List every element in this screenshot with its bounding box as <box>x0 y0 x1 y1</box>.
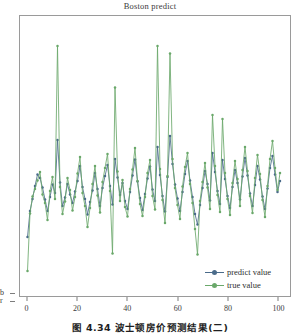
data-point <box>119 200 122 203</box>
data-point <box>239 205 242 208</box>
data-point <box>146 172 149 175</box>
data-point <box>49 190 52 193</box>
data-point <box>216 194 219 197</box>
data-point <box>196 223 199 226</box>
x-tick-mark-60 <box>177 297 178 301</box>
data-point <box>124 206 127 209</box>
data-point <box>144 196 147 199</box>
data-point <box>249 195 252 198</box>
data-point <box>91 183 94 186</box>
x-tick-label-100: 100 <box>272 304 284 313</box>
data-point <box>89 207 92 210</box>
legend-item-predict[interactable]: predict value <box>205 266 289 279</box>
data-point <box>116 170 119 173</box>
data-point <box>209 208 212 211</box>
data-point <box>111 252 114 255</box>
data-point <box>231 182 234 185</box>
x-tick-mark-0 <box>26 297 27 301</box>
data-point <box>154 208 157 211</box>
data-point <box>171 158 174 161</box>
data-point <box>131 168 134 171</box>
data-point <box>271 155 274 158</box>
data-point <box>156 146 159 149</box>
x-axis: 020406080100 <box>19 297 291 313</box>
data-point <box>71 209 74 212</box>
series-line <box>28 136 281 237</box>
data-point <box>264 216 267 219</box>
data-point <box>151 195 154 198</box>
series-line <box>28 46 281 271</box>
legend-label-true: true value <box>227 279 261 292</box>
data-point <box>26 236 29 239</box>
data-point <box>139 203 142 206</box>
data-point <box>164 222 167 225</box>
data-point <box>226 198 229 201</box>
series-true-value <box>26 45 281 273</box>
data-point <box>36 173 39 176</box>
data-point <box>184 166 187 169</box>
data-point <box>114 86 117 89</box>
y-tick-mark-b <box>10 293 15 294</box>
data-point <box>206 186 209 189</box>
chart-title: Boston predict <box>0 1 300 11</box>
data-point <box>104 167 107 170</box>
figure-caption: 图 4.34 波士顿房价预测结果(二) <box>0 320 300 334</box>
data-point <box>109 190 112 193</box>
data-point <box>244 146 247 149</box>
data-point <box>134 147 137 150</box>
x-tick-mark-80 <box>228 297 229 301</box>
data-point <box>191 202 194 205</box>
data-point <box>221 118 224 121</box>
x-tick-mark-40 <box>127 297 128 301</box>
data-point <box>31 195 34 198</box>
data-point <box>219 211 222 214</box>
data-point <box>56 139 59 142</box>
series-predict-value <box>26 135 281 239</box>
data-point <box>126 215 129 218</box>
data-point <box>41 193 44 196</box>
data-point <box>34 188 37 191</box>
data-point <box>106 153 109 156</box>
data-point <box>279 172 282 175</box>
data-point <box>211 114 214 117</box>
data-point <box>234 160 237 163</box>
x-tick-label-80: 80 <box>224 304 232 313</box>
series-canvas <box>20 16 290 296</box>
data-point <box>194 213 197 216</box>
data-point <box>251 212 254 215</box>
data-point <box>121 179 124 182</box>
data-point <box>136 180 139 183</box>
data-point <box>39 171 42 174</box>
data-point <box>276 189 279 192</box>
data-point <box>194 228 197 231</box>
chart-legend: predict value true value <box>205 266 289 292</box>
data-point <box>29 212 32 215</box>
data-point <box>26 270 29 273</box>
x-tick-label-60: 60 <box>174 304 182 313</box>
data-point <box>56 45 59 48</box>
data-point <box>189 183 192 186</box>
data-point <box>269 158 272 161</box>
data-point <box>174 187 177 190</box>
data-point <box>261 199 264 202</box>
plot-area <box>19 15 291 297</box>
data-point <box>94 165 97 168</box>
data-point <box>166 175 169 178</box>
data-point <box>229 214 232 217</box>
x-tick-mark-100 <box>278 297 279 301</box>
legend-item-true[interactable]: true value <box>205 279 289 292</box>
data-point <box>196 253 199 256</box>
legend-label-predict: predict value <box>227 266 271 279</box>
data-point <box>101 181 104 184</box>
data-point <box>86 226 89 229</box>
data-point <box>61 213 64 216</box>
x-tick-label-0: 0 <box>25 304 29 313</box>
data-point <box>96 194 99 197</box>
data-point <box>46 219 49 222</box>
legend-marker-true-icon <box>205 282 224 290</box>
data-point <box>246 170 249 173</box>
data-point <box>129 188 132 191</box>
data-point <box>274 167 277 170</box>
data-point <box>36 179 39 182</box>
data-point <box>176 204 179 207</box>
